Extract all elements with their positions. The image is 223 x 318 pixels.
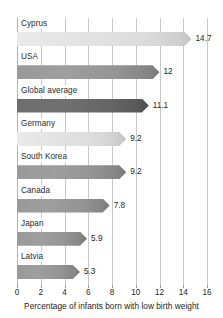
bar-category-label: Japan <box>20 218 46 229</box>
bar-category-label: Global average <box>20 85 79 96</box>
x-tick-label-14: 14 <box>179 288 188 297</box>
bar-fill <box>17 165 126 179</box>
x-tick-label-12: 12 <box>155 288 164 297</box>
x-tick-label-10: 10 <box>131 288 140 297</box>
bar-group: Global average11.1 <box>17 85 223 118</box>
bar <box>17 99 149 113</box>
x-tick-label-4: 4 <box>62 288 67 297</box>
x-tick-label-8: 8 <box>110 288 115 297</box>
bar-value-label: 9.2 <box>130 132 141 146</box>
bar-group: Latvia5.3 <box>17 251 223 284</box>
bar-value-label: 14.7 <box>196 32 212 46</box>
bar-group: Germany9.2 <box>17 118 223 151</box>
bar-fill <box>17 199 110 213</box>
bar-group: Cyprus14.7 <box>17 18 223 51</box>
bar-fill <box>17 99 149 113</box>
bar-chart: Cyprus14.7USA12Global average11.1Germany… <box>0 0 223 318</box>
x-axis: 0246810121416 <box>17 285 207 301</box>
x-axis-title: Percentage of infants born with low birt… <box>0 301 223 311</box>
bar-fill <box>17 32 192 46</box>
bar-value-label: 7.8 <box>114 199 125 213</box>
bar-category-label: Germany <box>20 118 57 129</box>
bar <box>17 232 87 246</box>
x-tick-label-0: 0 <box>15 288 20 297</box>
bar-category-label: South Korea <box>20 151 69 162</box>
x-tick-label-6: 6 <box>86 288 91 297</box>
bar <box>17 65 160 79</box>
bar <box>17 165 126 179</box>
bar-group: USA12 <box>17 51 223 84</box>
bar-fill <box>17 232 87 246</box>
bar-group: Canada7.8 <box>17 185 223 218</box>
x-tick-label-2: 2 <box>38 288 43 297</box>
bar-value-label: 12 <box>164 65 173 79</box>
bar-group: South Korea9.2 <box>17 151 223 184</box>
bar-category-label: Cyprus <box>20 18 49 29</box>
bar-value-label: 5.3 <box>84 265 95 279</box>
bar-category-label: USA <box>20 51 40 62</box>
bar-fill <box>17 265 80 279</box>
bar-group: Japan5.9 <box>17 218 223 251</box>
bar <box>17 32 192 46</box>
bar-category-label: Canada <box>20 185 52 196</box>
bar-value-label: 11.1 <box>153 99 168 113</box>
x-tick-label-16: 16 <box>202 288 211 297</box>
plot-area: Cyprus14.7USA12Global average11.1Germany… <box>17 18 207 285</box>
bar <box>17 199 110 213</box>
bar-value-label: 9.2 <box>130 165 141 179</box>
bar-fill <box>17 65 160 79</box>
bar <box>17 265 80 279</box>
bar-category-label: Latvia <box>20 251 45 262</box>
bar <box>17 132 126 146</box>
bar-fill <box>17 132 126 146</box>
bars-layer: Cyprus14.7USA12Global average11.1Germany… <box>17 18 207 285</box>
bar-value-label: 5.9 <box>91 232 102 246</box>
